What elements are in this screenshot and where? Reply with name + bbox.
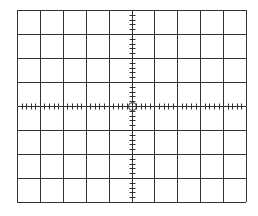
oscilloscope-graticule [0, 0, 258, 216]
